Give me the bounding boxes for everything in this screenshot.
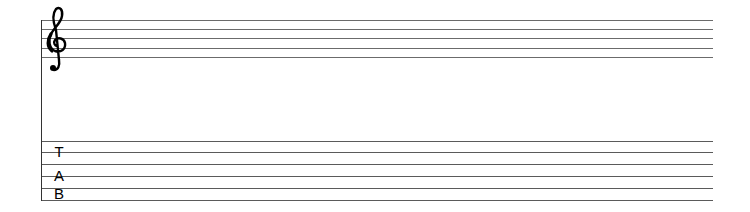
notation-staff [41,21,713,58]
tab-clef-label: T A B [54,143,64,202]
tab-staff [41,142,713,201]
treble-clef-icon [48,8,65,71]
music-sheet: T A B [0,0,750,212]
tab-letter-b: B [54,185,64,202]
staff-system: T A B [0,0,750,212]
tab-letter-t: T [54,143,63,160]
tab-letter-a: A [54,167,64,184]
